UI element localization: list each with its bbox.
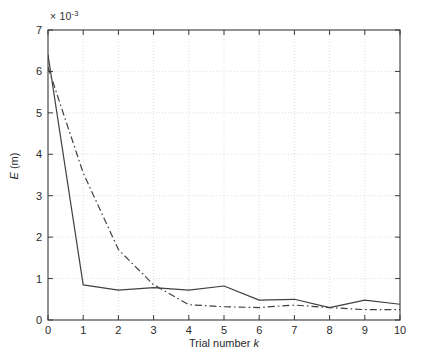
y-axis-multiplier-base: × 10	[50, 10, 72, 22]
y-tick-label-4: 4	[18, 148, 42, 160]
x-tick-label-8: 8	[318, 324, 342, 336]
x-tick-label-5: 5	[212, 324, 236, 336]
y-tick-label-5: 5	[18, 107, 42, 119]
x-tick-label-3: 3	[142, 324, 166, 336]
x-tick-label-6: 6	[247, 324, 271, 336]
y-axis-multiplier-label: × 10-3	[50, 10, 79, 22]
y-tick-label-7: 7	[18, 24, 42, 36]
x-tick-label-10: 10	[388, 324, 412, 336]
chart-figure: × 10-3 E (m) Trial number k	[0, 0, 428, 361]
x-axis-label: Trial number k	[48, 337, 400, 349]
y-axis-multiplier-exponent: -3	[72, 9, 79, 18]
x-tick-label-2: 2	[106, 324, 130, 336]
y-tick-label-3: 3	[18, 190, 42, 202]
plot-canvas	[0, 0, 428, 361]
y-tick-label-1: 1	[18, 273, 42, 285]
x-tick-label-9: 9	[353, 324, 377, 336]
x-tick-label-7: 7	[282, 324, 306, 336]
y-axis-label: E (m)	[8, 136, 20, 196]
y-tick-label-2: 2	[18, 231, 42, 243]
x-tick-label-1: 1	[71, 324, 95, 336]
y-tick-label-6: 6	[18, 65, 42, 77]
x-tick-label-4: 4	[177, 324, 201, 336]
x-tick-label-0: 0	[36, 324, 60, 336]
